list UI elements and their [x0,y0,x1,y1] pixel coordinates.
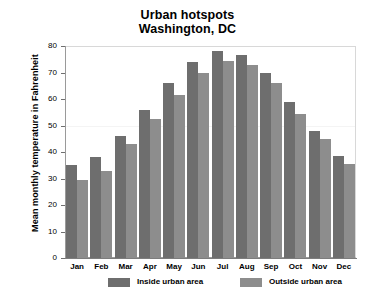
bar-outside [271,83,282,258]
x-axis-tick-label: Dec [324,262,364,271]
y-axis-tick: 70 [38,68,65,78]
legend-swatch-outside-icon [240,278,262,287]
legend-label-inside: Inside urban area [137,277,203,287]
y-axis-tick-label: 70 [48,68,57,78]
x-axis-line [65,258,357,259]
bar-outside [174,95,185,258]
y-axis-tick-label: 30 [48,174,57,184]
chart-title: Urban hotspots Washington, DC [0,8,375,36]
bar-outside [223,61,234,258]
bar-inside [236,55,247,258]
legend-item-outside: Outside urban area [240,276,342,288]
bars-layer [65,46,356,258]
bar-group [309,46,331,258]
y-axis-tick-label: 60 [48,94,57,104]
bar-inside [139,110,150,258]
bar-outside [198,73,209,259]
bar-group [163,46,185,258]
y-axis-tick-mark [61,258,65,259]
chart-title-line-2: Washington, DC [0,22,375,36]
chart-legend: Inside urban area Outside urban area [0,276,375,290]
bar-outside [126,144,137,258]
bar-inside [284,102,295,258]
bar-inside [212,51,223,258]
y-axis-tick: 60 [38,94,65,104]
y-axis-tick: 10 [38,227,65,237]
bar-outside [320,139,331,258]
y-axis-tick-label: 80 [48,41,57,51]
bar-group [236,46,258,258]
bar-group [187,46,209,258]
bar-inside [163,83,174,258]
y-axis-tick-label: 50 [48,121,57,131]
bar-outside [77,180,88,258]
bar-inside [66,165,77,258]
y-axis-tick: 80 [38,41,65,51]
bar-group [66,46,88,258]
bar-outside [295,114,306,258]
y-axis-tick-label: 20 [48,200,57,210]
bar-group [90,46,112,258]
legend-item-inside: Inside urban area [108,276,203,288]
y-axis-tick: 30 [38,174,65,184]
bar-group [284,46,306,258]
bar-inside [333,156,344,258]
bar-outside [101,171,112,258]
bar-inside [115,136,126,258]
bar-inside [90,157,101,258]
y-axis-tick: 50 [38,121,65,131]
bar-outside [344,164,355,258]
y-axis-tick: 20 [38,200,65,210]
bar-group [333,46,355,258]
y-axis-tick: 40 [38,147,65,157]
bar-group [212,46,234,258]
bar-outside [150,119,161,258]
bar-inside [260,73,271,259]
legend-swatch-inside-icon [108,278,130,287]
legend-label-outside: Outside urban area [269,277,342,287]
bar-inside [187,62,198,258]
bar-group [115,46,137,258]
bar-outside [247,65,258,258]
y-axis-tick-label: 10 [48,227,57,237]
bar-inside [309,131,320,258]
y-axis-tick-label: 40 [48,147,57,157]
bar-group [260,46,282,258]
bar-group [139,46,161,258]
chart-title-line-1: Urban hotspots [0,8,375,22]
